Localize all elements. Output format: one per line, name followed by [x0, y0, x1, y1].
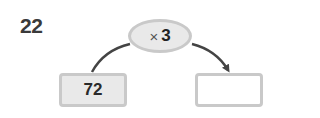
input-connector-curve: [92, 44, 130, 72]
operation-operand: 3: [161, 26, 170, 46]
operation-bubble: × 3: [128, 19, 192, 53]
answer-box[interactable]: [195, 73, 263, 107]
output-arrow-curve: [192, 44, 228, 70]
multiply-icon: ×: [149, 28, 158, 45]
input-box: 72: [59, 73, 127, 107]
input-value: 72: [84, 80, 103, 100]
